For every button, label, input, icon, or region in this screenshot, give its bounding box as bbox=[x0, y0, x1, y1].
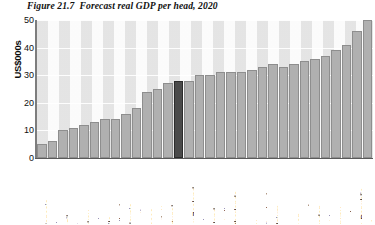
y-axis-ticks: 01020304050 bbox=[14, 12, 34, 162]
x-axis-label-text: Thailand bbox=[119, 204, 120, 224]
bar[interactable] bbox=[321, 56, 330, 158]
x-axis-label-text: India bbox=[56, 217, 57, 224]
x-axis-label-text: Switzerland bbox=[266, 193, 267, 224]
y-tick-30: 30 bbox=[24, 71, 34, 80]
bar[interactable] bbox=[268, 64, 277, 158]
y-tick-label: 50 bbox=[24, 15, 34, 25]
bar[interactable] bbox=[279, 67, 288, 158]
bar[interactable] bbox=[69, 128, 78, 158]
bar[interactable] bbox=[174, 81, 183, 158]
bar[interactable] bbox=[111, 119, 120, 158]
figure-title: Figure 21.7Forecast real GDP per head, 2… bbox=[27, 0, 218, 11]
x-axis-label-mexico: Mexico bbox=[90, 161, 99, 224]
bar[interactable] bbox=[310, 59, 319, 158]
y-tick-0: 0 bbox=[29, 154, 34, 163]
x-axis-label-australia: Australia bbox=[216, 161, 225, 224]
bar[interactable] bbox=[37, 144, 46, 158]
x-axis-label-text: Germany bbox=[245, 201, 246, 224]
y-tick-label: 40 bbox=[24, 42, 34, 52]
x-axis-label-france: France bbox=[279, 161, 288, 224]
x-axis-label-argentina: Argentina bbox=[132, 161, 141, 224]
x-axis-label-netherlands: Netherlands bbox=[226, 161, 235, 224]
bar[interactable] bbox=[342, 45, 351, 158]
bar[interactable] bbox=[352, 31, 361, 158]
x-axis-label-text: Indonesia bbox=[45, 199, 46, 224]
bar[interactable] bbox=[142, 92, 151, 158]
bar[interactable] bbox=[121, 114, 130, 158]
x-axis-label-text: Brazil bbox=[66, 215, 67, 224]
bar[interactable] bbox=[100, 119, 109, 158]
bar[interactable] bbox=[331, 50, 340, 158]
x-axis-label-usa: USA bbox=[363, 161, 372, 224]
x-axis-label-japan: Japan bbox=[289, 161, 298, 224]
bar[interactable] bbox=[300, 61, 309, 158]
bar[interactable] bbox=[132, 108, 141, 158]
x-axis-label-text: China bbox=[77, 214, 78, 224]
x-axis-label-text: Argentina bbox=[140, 200, 141, 224]
x-axis-label-china: China bbox=[69, 161, 78, 224]
bar[interactable] bbox=[79, 125, 88, 158]
x-axis-label-greece: Greece bbox=[142, 161, 151, 224]
x-axis-label-switzerland: Switzerland bbox=[258, 161, 267, 224]
x-axis-label-text: Portugal bbox=[171, 205, 172, 225]
x-axis-label-text: Austria bbox=[329, 210, 330, 224]
y-tick-40: 40 bbox=[24, 43, 34, 52]
bar[interactable] bbox=[247, 70, 256, 158]
x-axis-label-text: Spain bbox=[203, 214, 204, 224]
y-tick-label: 10 bbox=[24, 125, 34, 135]
figure-caption: Forecast real GDP per head, 2020 bbox=[79, 0, 217, 11]
x-axis-label-text: Greece bbox=[150, 208, 151, 224]
y-tick-50: 50 bbox=[24, 16, 34, 25]
x-axis-label-portugal: Portugal bbox=[163, 161, 172, 224]
x-axis-label-text: Japan bbox=[297, 213, 298, 224]
bar[interactable] bbox=[205, 75, 214, 158]
bar-series bbox=[37, 20, 373, 158]
y-tick-label: 20 bbox=[24, 97, 34, 107]
x-axis-label-south-korea: South Korea bbox=[153, 161, 162, 224]
x-axis-label-rish-republic: rish Republic bbox=[352, 161, 361, 224]
x-axis-label-text: Mexico bbox=[98, 209, 99, 224]
bar[interactable] bbox=[195, 75, 204, 158]
x-axis-label-canada: Canada bbox=[342, 161, 351, 224]
bar[interactable] bbox=[58, 130, 67, 158]
x-axis-label-text: New Zealand bbox=[192, 187, 193, 224]
x-axis-label-text: Turkey bbox=[87, 210, 88, 224]
x-axis-labels: IndonesiaIndiaBrazilChinaTurkeyMexicoChi… bbox=[37, 160, 373, 224]
bar[interactable] bbox=[90, 122, 99, 158]
x-axis-label-chile: Chile bbox=[100, 161, 109, 224]
x-axis-label-finland: Finland bbox=[205, 161, 214, 224]
x-axis-label-austria: Austria bbox=[321, 161, 330, 224]
x-axis-label-italy: Italy bbox=[247, 161, 256, 224]
x-axis-label-text: Canada bbox=[350, 206, 351, 224]
bar[interactable] bbox=[48, 141, 57, 158]
x-axis-label-uk: UK bbox=[174, 161, 183, 224]
bar[interactable] bbox=[258, 67, 267, 158]
y-tick-10: 10 bbox=[24, 126, 34, 135]
x-axis-label-new-zealand: New Zealand bbox=[184, 161, 193, 224]
x-axis-label-text: France bbox=[287, 210, 288, 224]
x-axis-label-thailand: Thailand bbox=[111, 161, 120, 224]
x-axis-label-text: Denmark bbox=[308, 202, 309, 224]
x-axis-label-text: Malaysia bbox=[129, 203, 130, 224]
bar[interactable] bbox=[153, 89, 162, 158]
bar[interactable] bbox=[216, 72, 225, 158]
x-axis-label-text: Finland bbox=[213, 208, 214, 224]
bar[interactable] bbox=[363, 20, 372, 158]
x-axis-label-text: Netherlands bbox=[234, 191, 235, 224]
x-axis-label-text: Italy bbox=[255, 220, 256, 224]
x-axis-label-turkey: Turkey bbox=[79, 161, 88, 224]
x-axis-label-text: Norway bbox=[339, 207, 340, 224]
chart-area: US$000s 01020304050 IndonesiaIndiaBrazil… bbox=[0, 12, 375, 224]
y-tick-label: 30 bbox=[24, 70, 34, 80]
x-axis-label-spain: Spain bbox=[195, 161, 204, 224]
bar[interactable] bbox=[237, 72, 246, 158]
x-axis-label-malaysia: Malaysia bbox=[121, 161, 130, 224]
bar[interactable] bbox=[289, 64, 298, 158]
bar[interactable] bbox=[184, 81, 193, 158]
x-axis-label-text: Belgium bbox=[276, 205, 277, 224]
bar[interactable] bbox=[226, 72, 235, 158]
x-axis-label-norway: Norway bbox=[331, 161, 340, 224]
x-axis-label-sweden: Sweden bbox=[310, 161, 319, 224]
x-axis-label-text: rish Republic bbox=[360, 188, 361, 224]
bar[interactable] bbox=[163, 83, 172, 158]
